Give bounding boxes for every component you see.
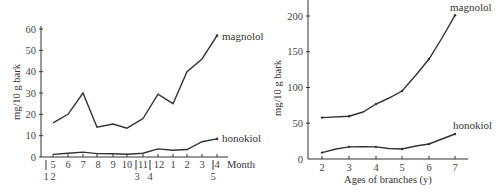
charts-canvas: 0 10 20 30 40 50 60 mg/10 g bark [0, 0, 497, 192]
left-xtick-11: 11 [138, 159, 148, 170]
right-ytick-100: 100 [287, 82, 303, 93]
left-xtick-6: 6 [65, 159, 70, 170]
right-xtick-6: 6 [426, 162, 431, 173]
right-chart: 0 50 100 150 200 mg/10 g bark 2 3 4 5 6 … [272, 0, 492, 186]
left-magnolol-line [53, 36, 217, 129]
left-ytick-40: 40 [26, 66, 37, 77]
left-xtick-4: 4 [214, 159, 220, 170]
left-xtick-3: 3 [199, 159, 204, 170]
left-ytick-20: 20 [26, 109, 37, 120]
right-y-axis-label: mg/10 g bark [272, 59, 283, 116]
right-xtick-4: 4 [373, 162, 379, 173]
left-honokiol-line [53, 139, 217, 155]
left-xtick-12: 12 [154, 159, 165, 170]
left-xtick-2: 2 [184, 159, 189, 170]
left-magnolol-label: magnolol [222, 30, 264, 42]
right-honokiol-line [322, 134, 455, 153]
left-x-axis-label: Month [227, 159, 256, 170]
left-sub-2: 2 [50, 171, 55, 182]
left-honokiol-label: honokiol [222, 132, 261, 144]
left-xtick-8: 8 [95, 159, 100, 170]
left-ytick-50: 50 [26, 45, 37, 56]
left-sub-3: 3 [134, 171, 139, 182]
right-xtick-5: 5 [399, 162, 404, 173]
right-xtick-3: 3 [346, 162, 351, 173]
left-ytick-0: 0 [31, 152, 36, 163]
right-ytick-150: 150 [287, 46, 303, 57]
right-ytick-50: 50 [293, 118, 304, 129]
left-y-axis-label: mg/10 g bark [11, 63, 22, 120]
right-magnolol-line [322, 15, 455, 117]
right-magnolol-label: magnolol [450, 1, 492, 13]
left-sub-5: 5 [210, 171, 215, 182]
right-honokiol-label: honokiol [453, 119, 492, 131]
left-ytick-10: 10 [26, 130, 37, 141]
left-sub-1: 1 [43, 171, 48, 182]
left-xtick-7: 7 [80, 159, 85, 170]
right-x-axis-label: Ages of branches (y) [344, 174, 432, 186]
left-sub-4: 4 [147, 171, 153, 182]
left-ytick-60: 60 [26, 24, 37, 35]
left-xtick-1: 1 [170, 159, 175, 170]
left-chart: 0 10 20 30 40 50 60 mg/10 g bark [11, 24, 264, 183]
left-ytick-30: 30 [26, 88, 37, 99]
left-xtick-10: 10 [122, 159, 133, 170]
right-ytick-200: 200 [287, 11, 303, 22]
right-xtick-7: 7 [452, 162, 457, 173]
left-xtick-9: 9 [110, 159, 115, 170]
left-xtick-5: 5 [50, 159, 55, 170]
right-ytick-0: 0 [298, 154, 303, 165]
right-xtick-2: 2 [319, 162, 324, 173]
